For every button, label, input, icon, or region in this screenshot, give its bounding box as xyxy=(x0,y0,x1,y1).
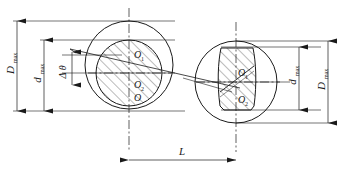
technical-drawing-figure: D max d max Δ θ d max D max L O 1 O 2 O … xyxy=(0,0,341,176)
label-right-O2-subscript: 2 xyxy=(245,101,248,107)
label-left-O1-subscript: 1 xyxy=(141,56,144,62)
label-d-max-right-subscript: max xyxy=(294,66,300,76)
label-D-max-left-subscript: max xyxy=(12,53,18,63)
label-D-max-right-subscript: max xyxy=(323,69,329,79)
label-D-max-right: D max xyxy=(315,69,329,91)
label-delta-theta: Δ θ xyxy=(57,65,68,79)
label-left-O: O xyxy=(134,92,141,103)
label-d-max-right: d max xyxy=(286,66,300,85)
label-L: L xyxy=(178,145,185,157)
label-left-O-symbol: O xyxy=(134,92,141,103)
label-right-O1-subscript: 1 xyxy=(245,74,248,80)
label-d-max-left: d max xyxy=(31,64,45,83)
label-d-max-right-symbol: d xyxy=(286,79,298,85)
label-D-max-right-symbol: D xyxy=(315,82,327,91)
drawing-canvas: D max d max Δ θ d max D max L O 1 O 2 O … xyxy=(0,0,341,176)
label-d-max-left-subscript: max xyxy=(39,64,45,74)
label-d-max-left-symbol: d xyxy=(31,77,43,83)
label-D-max-left: D max xyxy=(4,53,18,75)
label-left-O2-subscript: 2 xyxy=(141,86,144,92)
label-delta-theta-symbol: Δ θ xyxy=(57,65,68,79)
label-D-max-left-symbol: D xyxy=(4,66,16,75)
